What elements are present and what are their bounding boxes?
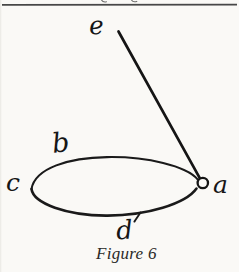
label-d: d: [115, 216, 133, 243]
point-a-ring: [198, 178, 208, 188]
header-text-remnant-right: [132, 0, 137, 2]
label-b: b: [51, 128, 71, 157]
ellipse-bottom-arc: [32, 189, 197, 216]
header-text-remnant-left: [102, 0, 107, 2]
label-c: c: [6, 170, 20, 195]
figure-caption: Figure 6: [96, 245, 157, 262]
scanned-book-page: e b c a d Figure 6: [0, 0, 239, 272]
label-a: a: [213, 172, 228, 197]
label-e: e: [88, 13, 105, 39]
line-e-to-a: [119, 32, 200, 178]
ellipse-top-arc: [32, 157, 198, 189]
